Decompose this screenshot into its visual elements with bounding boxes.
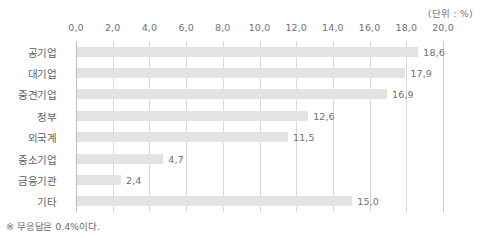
category-label: 중견기업	[0, 87, 57, 102]
x-tick-label: 16,0	[359, 22, 381, 33]
bar-value-label: 18,6	[423, 46, 445, 57]
x-axis-tick-labels: 0,02,04,06,08,010,012,014,016,018,020,0	[76, 22, 443, 36]
x-tick-label: 18,0	[396, 22, 418, 33]
x-tick-label: 20,0	[432, 22, 454, 33]
bar	[77, 89, 387, 99]
category-label: 중소기업	[0, 151, 57, 166]
bar-value-label: 17,9	[410, 68, 432, 79]
bar-row: 중견기업16,9	[0, 84, 481, 105]
x-tick-label: 2,0	[105, 22, 120, 33]
bar	[77, 132, 288, 142]
category-label: 대기업	[0, 66, 57, 81]
category-label: 기타	[0, 194, 57, 209]
bar	[77, 47, 418, 57]
bar-rows: 공기업18,6대기업17,9중견기업16,9정부12,6외국계11,5중소기업4…	[0, 41, 481, 212]
category-label: 외국계	[0, 130, 57, 145]
bar-row: 중소기업4,7	[0, 148, 481, 169]
bar-value-label: 11,5	[293, 132, 315, 143]
bar-row: 대기업17,9	[0, 62, 481, 83]
category-label: 정부	[0, 108, 57, 123]
bar-value-label: 15,0	[357, 196, 379, 207]
bar-value-label: 2,4	[126, 174, 141, 185]
bar-value-label: 4,7	[168, 153, 183, 164]
unit-caption: (단위 : %)	[428, 6, 473, 20]
x-tick-label: 6,0	[178, 22, 193, 33]
bar	[77, 111, 308, 121]
footnote: ※ 무응답은 0.4%이다.	[6, 219, 100, 233]
bar-row: 정부12,6	[0, 105, 481, 126]
x-tick-label: 10,0	[249, 22, 271, 33]
x-tick-label: 0,0	[68, 22, 83, 33]
bar-row: 외국계11,5	[0, 127, 481, 148]
bar	[77, 175, 121, 185]
bar-row: 금융기관2,4	[0, 169, 481, 190]
bar-chart-figure: (단위 : %) 0,02,04,06,08,010,012,014,016,0…	[0, 0, 481, 238]
bar	[77, 154, 163, 164]
category-label: 공기업	[0, 44, 57, 59]
bar-value-label: 16,9	[392, 89, 414, 100]
bar	[77, 68, 405, 78]
x-tick-label: 8,0	[215, 22, 230, 33]
bar-row: 공기업18,6	[0, 41, 481, 62]
x-tick-label: 12,0	[285, 22, 307, 33]
category-label: 금융기관	[0, 172, 57, 187]
bar	[77, 196, 352, 206]
bar-row: 기타15,0	[0, 191, 481, 212]
bar-value-label: 12,6	[313, 110, 335, 121]
x-tick-label: 14,0	[322, 22, 344, 33]
x-tick-label: 4,0	[142, 22, 157, 33]
